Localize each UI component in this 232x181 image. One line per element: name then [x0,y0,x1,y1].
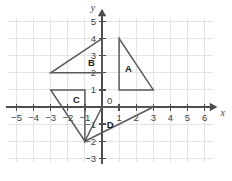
x-axis-arrow-icon [210,103,218,111]
y-axis-label: y [90,2,96,13]
x-tick-label: −5 [11,112,22,123]
x-tick-label: 1 [116,112,121,123]
x-axis-label: x [219,107,225,118]
y-tick-label: −3 [85,153,96,164]
coordinate-plane-figure: xy −5−4−3−2−1123456−3−2−1123450 ABCD [0,0,232,181]
triangle-label-a: A [125,63,132,74]
y-tick-label: 5 [91,16,96,27]
triangle-label-c: C [73,94,80,105]
x-tick-label: 2 [134,112,139,123]
axes: xy [6,2,225,164]
x-tick-label: −4 [28,112,39,123]
x-tick-label: 6 [202,112,207,123]
y-tick-label: −1 [85,119,96,130]
origin-label: 0 [107,95,112,106]
y-axis-arrow-icon [98,9,106,17]
triangle-label-b: B [88,57,95,68]
coordinate-plot: xy −5−4−3−2−1123456−3−2−1123450 ABCD [0,0,232,181]
y-tick-label: 1 [91,84,96,95]
x-tick-label: 5 [185,112,190,123]
triangle-label-d: D [107,119,114,130]
x-tick-label: 4 [168,112,173,123]
grid-lines [8,18,213,162]
x-tick-label: 3 [151,112,156,123]
x-tick-label: −3 [45,112,56,123]
